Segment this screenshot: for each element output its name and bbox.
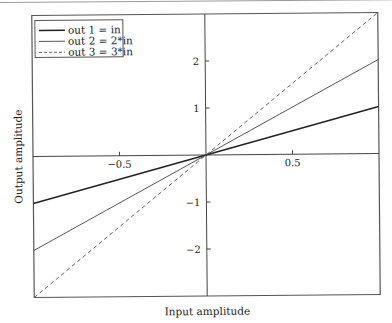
series-out2 bbox=[32, 59, 380, 250]
x-tick-label: 0.5 bbox=[285, 157, 301, 168]
y-tick-label: 1 bbox=[193, 103, 199, 114]
x-axis-title: Input amplitude bbox=[165, 305, 251, 318]
y-axis-title: Output amplitude bbox=[12, 109, 25, 203]
y-tick-label: −2 bbox=[186, 244, 201, 255]
x-tick-label: −0.5 bbox=[107, 159, 131, 170]
y-tick-label: 2 bbox=[193, 56, 199, 67]
legend: out 1 = in out 2 = 2*in out 3 = 3*in bbox=[35, 20, 133, 58]
y-tick-label: −1 bbox=[186, 197, 201, 208]
chart: −0.5 0.5 2 1 −1 −2 out 1 = in out 2 = 2*… bbox=[0, 0, 392, 323]
legend-label: out 3 = 3*in bbox=[68, 45, 133, 58]
